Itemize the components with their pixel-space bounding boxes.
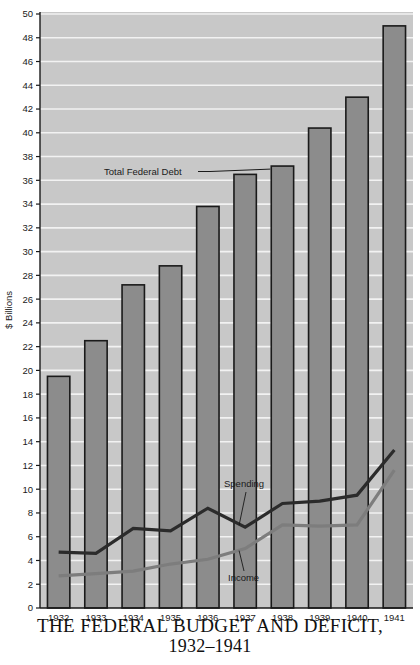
y-tick-label: 18 (22, 389, 33, 400)
bar-1935[interactable] (159, 266, 181, 608)
y-tick-label: 14 (22, 436, 33, 447)
y-tick-label: 20 (22, 365, 33, 376)
y-tick-label: 30 (22, 246, 33, 257)
y-tick-label: 0 (28, 602, 33, 613)
bar-1934[interactable] (122, 285, 144, 608)
y-tick-label: 42 (22, 103, 33, 114)
y-tick-label: 38 (22, 151, 33, 162)
y-tick-label: 40 (22, 127, 33, 138)
y-tick-label: 10 (22, 484, 33, 495)
y-tick-label: 4 (28, 555, 33, 566)
y-axis-title: $ Billions (3, 291, 14, 329)
chart-title-line2: 1932–1941 (0, 637, 420, 656)
y-tick-label: 26 (22, 294, 33, 305)
y-tick-label: 44 (22, 80, 33, 91)
y-tick-label: 8 (28, 507, 33, 518)
y-tick-label: 28 (22, 270, 33, 281)
chart-title-line1: THE FEDERAL BUDGET AND DEFICIT, (37, 615, 383, 636)
chart-canvas: 0246810121416182022242628303234363840424… (0, 0, 420, 665)
bar-1938[interactable] (271, 166, 293, 608)
budget-deficit-chart: 0246810121416182022242628303234363840424… (0, 0, 420, 665)
bar-1933[interactable] (85, 341, 107, 608)
y-tick-label: 34 (22, 198, 33, 209)
y-tick-label: 48 (22, 32, 33, 43)
bar-1940[interactable] (346, 97, 368, 608)
annotation-label-income: Income (228, 572, 259, 583)
y-tick-label: 6 (28, 531, 33, 542)
bar-1932[interactable] (47, 376, 69, 608)
figure: 0246810121416182022242628303234363840424… (0, 0, 420, 665)
bar-1941[interactable] (383, 26, 405, 608)
page-title: THE FEDERAL BUDGET AND DEFICIT, 1932–194… (0, 616, 420, 656)
y-tick-label: 24 (22, 317, 33, 328)
annotation-label-spending: Spending (224, 478, 264, 489)
y-tick-label: 22 (22, 341, 33, 352)
annotation-label-total-federal-debt: Total Federal Debt (104, 166, 182, 177)
y-tick-label: 50 (22, 8, 33, 19)
y-tick-label: 32 (22, 222, 33, 233)
bar-1936[interactable] (197, 206, 219, 608)
y-tick-label: 36 (22, 175, 33, 186)
y-axis-ticks: 0246810121416182022242628303234363840424… (22, 8, 40, 613)
bar-1939[interactable] (309, 128, 331, 608)
y-tick-label: 12 (22, 460, 33, 471)
y-tick-label: 46 (22, 56, 33, 67)
y-tick-label: 2 (28, 579, 33, 590)
y-tick-label: 16 (22, 412, 33, 423)
